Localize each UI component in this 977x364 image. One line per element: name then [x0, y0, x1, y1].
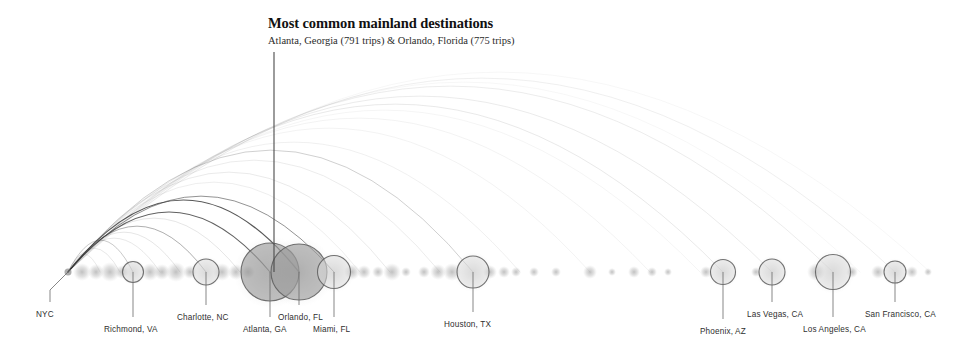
node-label-nyc: NYC [36, 310, 54, 320]
node-layer [65, 236, 909, 309]
chart-title: Most common mainland destinations [268, 15, 608, 32]
node-label-los-angeles-ca: Los Angeles, CA [803, 325, 866, 335]
node-label-san-francisco-ca: San Francisco, CA [865, 310, 936, 320]
node-label-phoenix-az: Phoenix, AZ [700, 327, 746, 337]
destination-blob [383, 263, 401, 281]
destination-blob [372, 266, 384, 278]
title-block: Most common mainland destinations Atlant… [268, 15, 608, 47]
node-label-houston-tx: Houston, TX [444, 320, 491, 330]
node-label-atlanta-ga: Atlanta, GA [243, 325, 287, 335]
destination-blob [628, 266, 640, 278]
destination-blob [498, 266, 510, 278]
destination-blob [418, 266, 430, 278]
destination-blob [529, 267, 539, 277]
destination-blob [583, 265, 597, 279]
destination-blob [357, 265, 371, 279]
chart-subtitle: Atlanta, Georgia (791 trips) & Orlando, … [268, 34, 608, 47]
destination-blob [608, 268, 616, 276]
node-label-miami-fl: Miami, FL [313, 325, 350, 335]
flow-arc [68, 78, 895, 272]
destination-blob [664, 268, 672, 276]
arc-flow-chart [0, 0, 977, 364]
destination-blob [924, 268, 932, 276]
node-label-richmond-va: Richmond, VA [104, 325, 158, 335]
node-label-charlotte-nc: Charlotte, NC [177, 313, 229, 323]
label-leader-line [50, 272, 68, 302]
node-label-las-vegas-ca: Las Vegas, CA [747, 310, 803, 320]
node-label-orlando-fl: Orlando, FL [278, 313, 323, 323]
destination-blob [511, 267, 521, 277]
destination-blob [647, 267, 657, 277]
destination-blob [551, 267, 561, 277]
visualization-root: Most common mainland destinations Atlant… [0, 0, 977, 364]
arc-layer [68, 72, 930, 272]
destination-blob [401, 267, 411, 277]
